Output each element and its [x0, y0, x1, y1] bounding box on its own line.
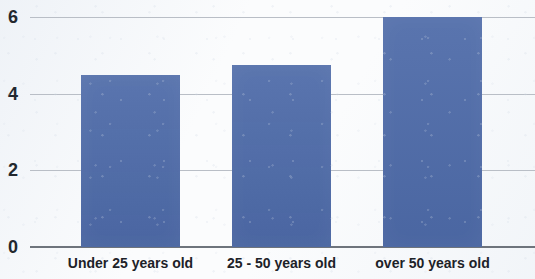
- bar-chart: 6 4 2 0 Under 25 years old 25 - 50 years…: [0, 0, 535, 279]
- bar-under-25: [81, 75, 180, 247]
- ytick-label-6: 6: [8, 8, 28, 26]
- ytick-label-2: 2: [8, 161, 28, 179]
- ytick-label-0: 0: [8, 238, 28, 256]
- xtick-label-25-50: 25 - 50 years old: [207, 256, 356, 270]
- bar-25-50: [232, 65, 331, 247]
- ytick-label-4: 4: [8, 85, 28, 103]
- xtick-label-over-50: over 50 years old: [358, 256, 507, 270]
- xtick-label-under-25: Under 25 years old: [56, 256, 205, 270]
- bar-over-50: [383, 17, 482, 247]
- plot-area: 6 4 2 0 Under 25 years old 25 - 50 years…: [0, 0, 535, 279]
